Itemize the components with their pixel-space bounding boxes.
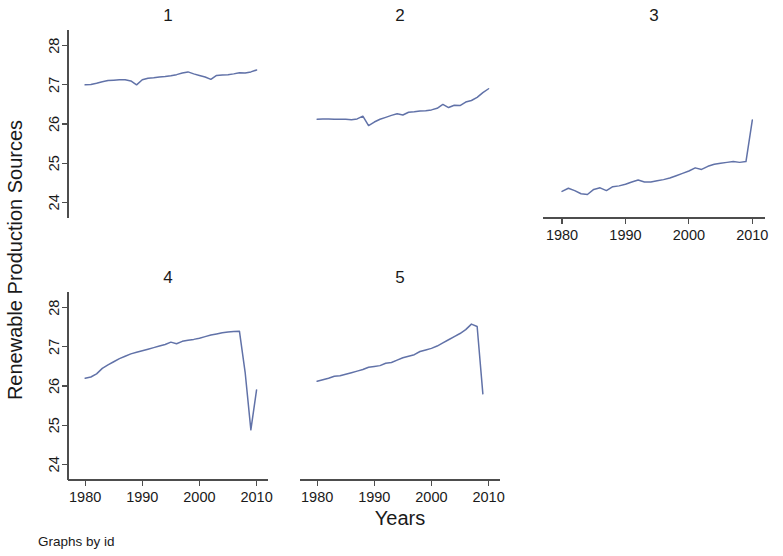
x-tick-label-3-2000: 2000 — [673, 227, 705, 243]
y-tick-label-24: 24 — [46, 456, 62, 472]
x-tick-label-4-1990: 1990 — [126, 489, 158, 505]
x-tick-label-5-1980: 1980 — [301, 489, 333, 505]
x-tick-label-4-1980: 1980 — [69, 489, 101, 505]
series-line-1 — [85, 70, 256, 85]
panel-title-1: 1 — [163, 6, 172, 25]
panel-3: 31980199020002010 — [543, 6, 768, 243]
y-tick-label-27: 27 — [46, 77, 62, 93]
panel-5: 51980199020002010 — [300, 268, 505, 505]
panel-4: 424252627281980199020002010 — [46, 268, 273, 505]
y-tick-label-24: 24 — [46, 194, 62, 210]
series-line-4 — [85, 331, 256, 430]
y-axis-title: Renewable Production Sources — [4, 120, 26, 400]
y-tick-label-28: 28 — [46, 300, 62, 316]
panel-2: 2 — [317, 6, 488, 126]
x-tick-label-4-2010: 2010 — [240, 489, 272, 505]
series-line-3 — [562, 120, 752, 194]
x-tick-label-3-1990: 1990 — [609, 227, 641, 243]
x-tick-label-3-2010: 2010 — [736, 227, 768, 243]
series-line-5 — [317, 324, 483, 394]
panel-title-2: 2 — [395, 6, 404, 25]
graph-figure: 1242526272823198019902000201042425262728… — [0, 0, 783, 556]
y-tick-label-27: 27 — [46, 339, 62, 355]
panel-1: 12425262728 — [46, 6, 257, 218]
panel-title-3: 3 — [649, 6, 658, 25]
x-tick-label-4-2000: 2000 — [183, 489, 215, 505]
y-tick-label-26: 26 — [46, 116, 62, 132]
small-multiples-line-chart: 1242526272823198019902000201042425262728… — [0, 0, 783, 556]
x-axis-title: Years — [375, 507, 425, 529]
x-tick-label-5-2000: 2000 — [415, 489, 447, 505]
series-line-2 — [317, 89, 488, 126]
panel-title-5: 5 — [395, 268, 404, 287]
graph-note: Graphs by id — [38, 534, 115, 549]
y-tick-label-25: 25 — [46, 417, 62, 433]
y-tick-label-26: 26 — [46, 378, 62, 394]
y-tick-label-28: 28 — [46, 38, 62, 54]
y-tick-label-25: 25 — [46, 155, 62, 171]
x-tick-label-3-1980: 1980 — [546, 227, 578, 243]
x-tick-label-5-2010: 2010 — [472, 489, 504, 505]
panel-title-4: 4 — [163, 268, 172, 287]
x-tick-label-5-1990: 1990 — [358, 489, 390, 505]
